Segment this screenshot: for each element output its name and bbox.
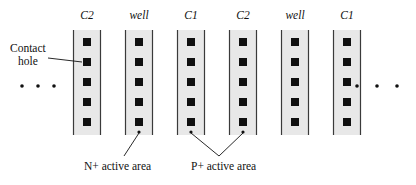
contact-hole-5-4 [291,98,299,106]
contact-hole-1-2 [83,58,91,66]
p-plus-active-area-target-dot-2 [241,130,244,133]
contact-hole-1-5 [83,118,91,126]
contact-hole-1-3 [83,78,91,86]
contact-hole-5-3 [291,78,299,86]
contact-hole-5-5 [291,118,299,126]
contact-hole-2-3 [135,78,143,86]
p-plus-active-area-leader-line-1 [191,133,219,156]
ellipsis-right-dot-1 [355,84,359,88]
contact-hole-4-3 [239,78,247,86]
contact-hole-4-1 [239,38,247,46]
columns-group [73,30,361,135]
contact-hole-6-5 [343,118,351,126]
contact-hole-5-2 [291,58,299,66]
contact-hole-6-4 [343,98,351,106]
contact-hole-1-4 [83,98,91,106]
contact-hole-6-1 [343,38,351,46]
ellipsis-left-dot-3 [52,84,56,88]
ellipsis-left-dot-2 [36,84,40,88]
contact-hole-1-1 [83,38,91,46]
ellipsis-right-dot-3 [395,84,399,88]
contact-hole-4-5 [239,118,247,126]
contact-hole-3-4 [187,98,195,106]
contact-hole-2-1 [135,38,143,46]
contact-hole-4-2 [239,58,247,66]
contact-hole-6-3 [343,78,351,86]
p-plus-active-area-leader-line-2 [219,133,243,156]
n-plus-active-area-target-dot [137,130,140,133]
contact-hole-6-2 [343,58,351,66]
diagram-vector-layer [0,0,416,185]
ellipsis-left-dot-1 [20,84,24,88]
contact-hole-3-3 [187,78,195,86]
contact-hole-3-5 [187,118,195,126]
contact-hole-2-2 [135,58,143,66]
contact-hole-2-5 [135,118,143,126]
diagram-canvas: C2 well C1 C2 well C1 Contact hole N+ ac… [0,0,416,185]
n-plus-active-area-leader-line [124,133,139,156]
contact-hole-3-2 [187,58,195,66]
contact-hole-4-4 [239,98,247,106]
contact-hole-3-1 [187,38,195,46]
contact-hole-2-4 [135,98,143,106]
ellipsis-right-dot-2 [375,84,379,88]
contact-hole-5-1 [291,38,299,46]
p-plus-active-area-target-dot-1 [189,130,192,133]
